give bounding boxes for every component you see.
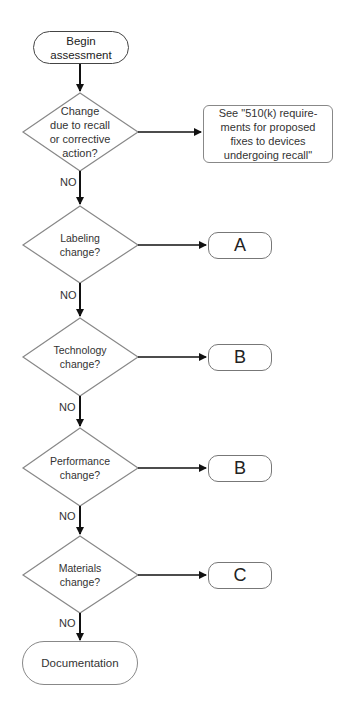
see-box-line-3: fixes to devices — [230, 134, 305, 148]
decision-performance-line-2: change? — [38, 468, 122, 482]
no-label-3: NO — [59, 401, 76, 413]
decision-labeling-line-1: Labeling — [38, 231, 122, 245]
decision-recall-line-2: due to recall — [38, 118, 122, 132]
decision-technology-line-1: Technology — [38, 343, 122, 357]
outcome-a-label: A — [234, 235, 246, 256]
start-line-1: Begin — [66, 34, 95, 48]
see-box-line-2: ments for proposed — [221, 120, 316, 134]
outcome-c-label: C — [234, 565, 247, 586]
documentation-label: Documentation — [41, 657, 118, 669]
no-label-1: NO — [60, 176, 77, 188]
decision-materials-line-1: Materials — [38, 561, 122, 575]
decision-labeling-line-2: change? — [38, 245, 122, 259]
decision-recall-line-4: action? — [38, 146, 122, 160]
decision-technology-line-2: change? — [38, 357, 122, 371]
decision-recall-line-1: Change — [38, 104, 122, 118]
outcome-c-box: C — [208, 562, 272, 589]
decision-labeling-text: Labeling change? — [38, 231, 122, 259]
decision-performance-text: Performance change? — [38, 454, 122, 482]
no-label-4: NO — [59, 510, 76, 522]
see-box-line-1: See "510(k) require- — [219, 106, 318, 120]
decision-materials-line-2: change? — [38, 575, 122, 589]
decision-recall-line-3: or corrective — [38, 132, 122, 146]
outcome-b-box-performance: B — [208, 455, 272, 482]
decision-recall-text: Change due to recall or corrective actio… — [38, 104, 122, 160]
outcome-b-box-technology: B — [208, 344, 272, 371]
decision-materials-text: Materials change? — [38, 561, 122, 589]
start-terminal: Begin assessment — [33, 31, 129, 64]
see-box-line-4: undergoing recall" — [224, 148, 312, 162]
outcome-b-label-2: B — [234, 458, 246, 479]
start-line-2: assessment — [50, 48, 111, 62]
no-label-2: NO — [60, 289, 77, 301]
decision-performance-line-1: Performance — [38, 454, 122, 468]
outcome-b-label: B — [234, 347, 246, 368]
documentation-terminal: Documentation — [22, 641, 138, 685]
no-label-5: NO — [59, 617, 76, 629]
outcome-a-box: A — [208, 232, 272, 259]
see-510k-box: See "510(k) require- ments for proposed … — [203, 105, 333, 163]
decision-technology-text: Technology change? — [38, 343, 122, 371]
